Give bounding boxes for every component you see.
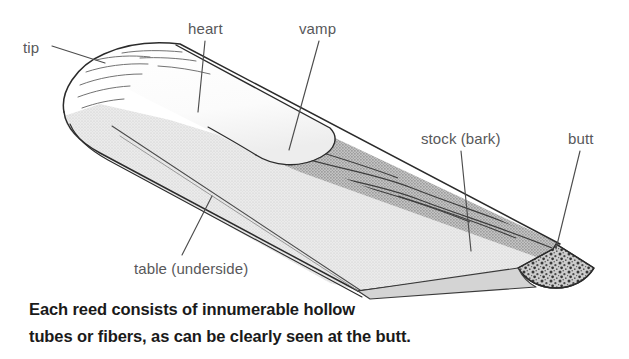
caption-line-2: tubes or fibers, as can be clearly seen …	[29, 328, 411, 345]
label-butt: butt	[568, 131, 593, 146]
label-stock-bark: stock (bark)	[421, 131, 501, 146]
leader-line-butt	[556, 151, 580, 249]
caption-line-1: Each reed consists of innumerable hollow	[29, 301, 355, 318]
reed-anatomy-figure: tip heart vamp stock (bark) butt table (…	[0, 0, 629, 359]
label-tip: tip	[23, 40, 39, 55]
label-heart: heart	[188, 21, 223, 36]
leader-line-tip	[52, 46, 105, 63]
label-table-underside: table (underside)	[134, 261, 248, 276]
label-vamp: vamp	[299, 21, 336, 36]
